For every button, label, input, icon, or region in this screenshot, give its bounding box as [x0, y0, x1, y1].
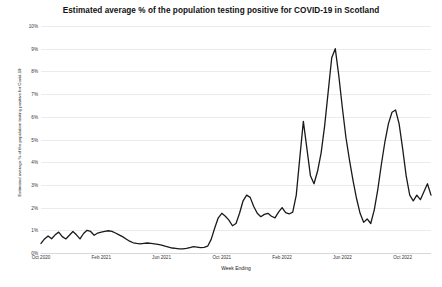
y-axis-tick-label: 3%: [31, 182, 38, 187]
gridline: [41, 253, 431, 254]
x-axis-tick-label: Feb 2021: [92, 255, 111, 261]
chart-container: Estimated average % of the population te…: [0, 0, 442, 287]
x-axis-tick-label: Feb 2022: [272, 255, 291, 261]
y-axis-tick-label: 10%: [29, 24, 38, 29]
x-axis-tick-label: Oct 2022: [393, 255, 412, 261]
x-axis-tick-label: Jun 2021: [152, 255, 171, 261]
y-axis-tick-labels: 0%1%2%3%4%5%6%7%8%9%10%: [24, 26, 40, 253]
y-axis-tick-label: 9%: [31, 46, 38, 51]
y-axis-tick-label: 8%: [31, 69, 38, 74]
y-axis-tick-label: 4%: [31, 160, 38, 165]
y-axis-tick-label: 1%: [31, 228, 38, 233]
page-title: Estimated average % of the population te…: [0, 5, 442, 16]
x-axis-title: Week Ending: [41, 265, 431, 271]
x-axis-tick-labels: Oct 2020Feb 2021Jun 2021Oct 2021Feb 2022…: [41, 255, 431, 265]
x-axis-tick-label: Oct 2021: [212, 255, 231, 261]
y-axis-tick-label: 6%: [31, 114, 38, 119]
plot-area: [41, 26, 431, 253]
line-series-path: [41, 49, 431, 249]
x-axis-tick-label: Oct 2020: [32, 255, 51, 261]
y-axis-tick-label: 7%: [31, 92, 38, 97]
line-series-svg: [41, 26, 431, 253]
y-axis-tick-label: 2%: [31, 205, 38, 210]
y-axis-tick-label: 5%: [31, 137, 38, 142]
x-axis-tick-label: Jun 2022: [333, 255, 352, 261]
y-axis-title: Estimated average % of the population te…: [17, 33, 22, 233]
